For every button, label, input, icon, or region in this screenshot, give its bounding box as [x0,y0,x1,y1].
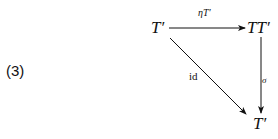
arrow-diagonal [170,38,246,114]
diagram-arrows [0,0,278,139]
